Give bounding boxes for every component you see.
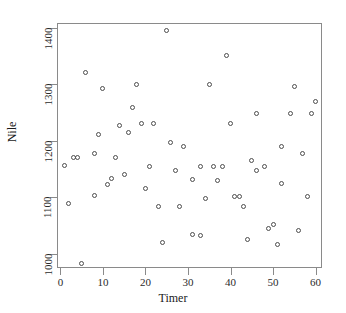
x-axis-tick-label: 10 xyxy=(83,277,123,288)
y-axis-title: Nile xyxy=(6,122,18,143)
y-axis-tick-label: 1300 xyxy=(43,84,54,106)
x-axis-tick xyxy=(273,268,274,275)
x-axis-tick-label: 50 xyxy=(253,277,293,288)
plot-frame xyxy=(57,23,322,268)
x-axis-title: Timer xyxy=(0,292,346,304)
x-axis-tick xyxy=(103,268,104,275)
y-axis-tick-label: 1000 xyxy=(43,253,54,275)
x-axis-tick-label: 40 xyxy=(211,277,251,288)
x-axis-tick-label: 60 xyxy=(296,277,336,288)
x-axis-tick xyxy=(145,268,146,275)
x-axis-tick xyxy=(231,268,232,275)
y-axis-tick-label: 1400 xyxy=(43,27,54,49)
y-axis-tick-label: 1100 xyxy=(43,197,54,219)
x-axis-tick-label: 0 xyxy=(40,277,80,288)
y-axis-tick-label: 1200 xyxy=(43,140,54,162)
x-axis-tick-label: 20 xyxy=(125,277,165,288)
x-axis-tick xyxy=(316,268,317,275)
x-axis-tick-label: 30 xyxy=(168,277,208,288)
scatter-plot-figure: 10001100120013001400 0102030405060 Nile … xyxy=(0,0,346,313)
x-axis-tick xyxy=(60,268,61,275)
x-axis-tick xyxy=(188,268,189,275)
